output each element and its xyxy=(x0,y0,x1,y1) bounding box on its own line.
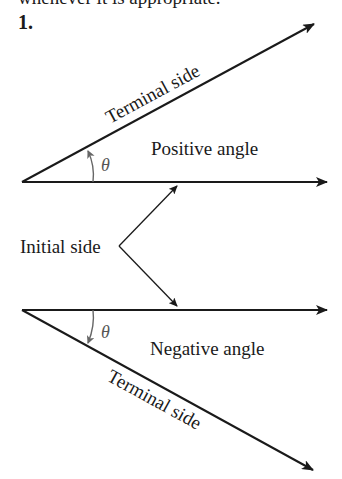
negative-angle-label: Negative angle xyxy=(150,338,264,359)
angle-diagram: θ Terminal side Positive angle Initial s… xyxy=(0,0,342,479)
positive-angle-arc-icon xyxy=(88,151,93,182)
positive-angle-label: Positive angle xyxy=(151,138,258,159)
pointer-up-arrow xyxy=(119,186,177,246)
negative-terminal-side-ray xyxy=(22,310,313,470)
positive-theta: θ xyxy=(101,155,110,175)
positive-angle-group: θ Terminal side Positive angle xyxy=(22,24,327,182)
negative-theta: θ xyxy=(101,322,110,342)
pointer-down-arrow xyxy=(119,246,177,306)
negative-angle-group: θ Negative angle Terminal side xyxy=(22,310,327,470)
positive-terminal-label: Terminal side xyxy=(102,60,203,128)
negative-terminal-label: Terminal side xyxy=(104,365,205,433)
initial-side-label: Initial side xyxy=(20,236,101,257)
initial-side-pointer: Initial side xyxy=(20,186,177,306)
negative-angle-arc-icon xyxy=(88,310,93,343)
